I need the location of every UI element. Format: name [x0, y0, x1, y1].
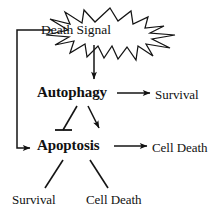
edge-autophagy-activates-apoptosis — [88, 106, 99, 128]
node-cell-death-from-apoptosis: Cell Death — [152, 141, 207, 154]
edge-apoptosis-to-survival-outcome — [45, 160, 63, 188]
edge-autophagy-inhibits-apoptosis — [63, 106, 77, 130]
node-death-signal: Death Signal — [41, 23, 111, 37]
node-apoptosis: Apoptosis — [37, 138, 99, 153]
node-cell-death-outcome: Cell Death — [86, 193, 141, 206]
edge-apoptosis-to-cell-death-outcome — [90, 160, 108, 188]
node-survival-outcome: Survival — [12, 193, 56, 206]
node-autophagy: Autophagy — [37, 85, 107, 100]
node-survival-from-autophagy: Survival — [155, 88, 199, 101]
pathway-diagram: Death Signal Autophagy Apoptosis Surviva… — [0, 0, 220, 217]
